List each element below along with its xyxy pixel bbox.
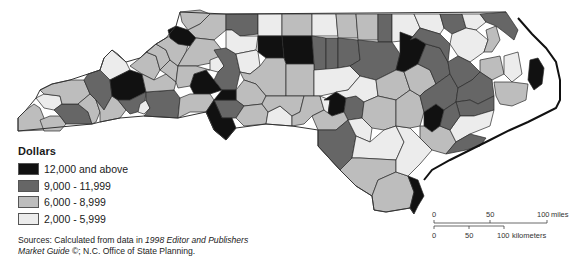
county xyxy=(282,14,312,36)
county xyxy=(356,14,378,40)
legend-label: 12,000 and above xyxy=(44,163,128,175)
legend-item: 2,000 - 5,999 xyxy=(18,211,128,228)
legend-item: 6,000 - 8,999 xyxy=(18,194,128,211)
county xyxy=(504,52,522,82)
scale-miles-tick: 100 xyxy=(537,210,550,219)
county xyxy=(144,90,180,118)
county xyxy=(494,82,528,106)
legend-label: 6,000 - 8,999 xyxy=(44,196,106,208)
county xyxy=(286,64,314,96)
county xyxy=(258,14,282,36)
county xyxy=(312,14,338,36)
county xyxy=(450,28,488,62)
legend-label: 9,000 - 11,999 xyxy=(44,180,111,192)
legend-swatch xyxy=(18,180,39,192)
legend: Dollars 12,000 and above 9,000 - 11,999 … xyxy=(18,145,128,227)
county xyxy=(326,38,338,70)
sources-suffix: ©; N.C. Office of State Planning. xyxy=(70,246,196,256)
scale-km-tick: 100 xyxy=(497,231,510,240)
scale-km-tick: 50 xyxy=(465,231,473,240)
county xyxy=(378,14,392,42)
sources-title-part2: Market Guide xyxy=(18,246,70,256)
county xyxy=(336,14,358,38)
legend-item: 9,000 - 11,999 xyxy=(18,178,128,195)
county xyxy=(258,36,284,58)
sources-prefix: Sources: Calculated from data in xyxy=(18,235,145,245)
legend-item: 12,000 and above xyxy=(18,161,128,178)
sources-note: Sources: Calculated from data in 1998 Ed… xyxy=(18,235,248,257)
scale-bar: 0 50 100 miles 0 50 100 kilometers xyxy=(430,210,570,244)
legend-title: Dollars xyxy=(18,145,128,157)
legend-swatch xyxy=(18,163,39,175)
scale-miles-tick: 50 xyxy=(486,210,494,219)
scale-km-unit: kilometers xyxy=(512,231,546,240)
county xyxy=(528,58,544,90)
county xyxy=(282,36,314,64)
legend-swatch xyxy=(18,213,39,225)
scale-km-tick: 0 xyxy=(432,231,436,240)
scale-miles-tick: 0 xyxy=(432,210,436,219)
scale-miles-unit: miles xyxy=(551,210,569,219)
legend-label: 2,000 - 5,999 xyxy=(44,213,106,225)
sources-title-part1: 1998 Editor and Publishers xyxy=(145,235,248,245)
legend-swatch xyxy=(18,196,39,208)
